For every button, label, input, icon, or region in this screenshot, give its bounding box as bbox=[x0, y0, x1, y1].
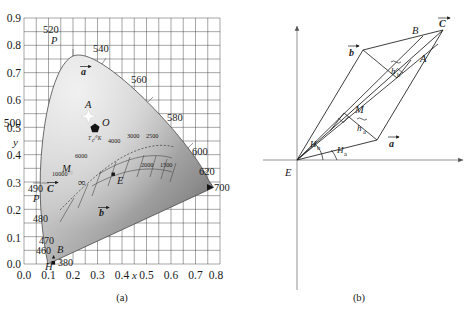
label-M: M bbox=[61, 163, 72, 174]
gamut-fill bbox=[20, 14, 225, 269]
label-vec-a-b: a bbox=[389, 138, 394, 149]
label-P-low: P bbox=[32, 193, 40, 204]
panel-b-vector-diagram: E M A B C b a h a h b H a H b bbox=[245, 0, 473, 313]
x-tick-0.8: 0.8 bbox=[209, 269, 224, 281]
label-H-a: H bbox=[336, 145, 344, 155]
x-tick-0.4: 0.4 bbox=[115, 269, 130, 281]
diagonal-M bbox=[297, 30, 443, 160]
label-H-a-group: H a bbox=[336, 145, 347, 157]
x-tick-0.2: 0.2 bbox=[66, 269, 81, 281]
panel-a-chromaticity-diagram: 0.9 0.8 0.7 0.6 0.5 0.4 0.3 0.2 0.1 0.0 … bbox=[0, 0, 245, 313]
label-E: E bbox=[116, 175, 124, 186]
iso-6000: 6000 bbox=[75, 152, 87, 159]
label-vec-C-b: C bbox=[439, 18, 446, 29]
label-vec-b-b: b bbox=[349, 47, 354, 58]
h-a-tilde bbox=[357, 118, 367, 120]
wl-380: 380 bbox=[58, 257, 73, 268]
iso-2000: 2000 bbox=[141, 161, 153, 168]
coordinate-axes bbox=[263, 26, 463, 290]
label-B-b: B bbox=[412, 25, 419, 36]
iso-2500: 2500 bbox=[146, 132, 158, 139]
iso-3000: 3000 bbox=[127, 132, 139, 139]
wl-460: 460 bbox=[36, 245, 51, 256]
edge-b-C bbox=[363, 30, 443, 50]
label-E-b: E bbox=[284, 167, 292, 178]
label-B: B bbox=[57, 244, 64, 255]
h-a-foot bbox=[330, 113, 344, 131]
label-h-a-sub: a bbox=[363, 128, 366, 135]
label-P-top: P bbox=[50, 35, 58, 46]
marker-E-square bbox=[112, 173, 115, 176]
y-tick-0.8: 0.8 bbox=[7, 39, 22, 51]
y-tick-0.6: 0.6 bbox=[7, 94, 22, 106]
label-M-b: M bbox=[354, 104, 365, 115]
x-axis-label: x bbox=[131, 269, 137, 281]
iso-1500: 1500 bbox=[160, 161, 172, 168]
label-h-a-group: h a bbox=[357, 123, 366, 135]
panel-a-caption: (a) bbox=[116, 292, 128, 304]
label-vec-C: C bbox=[47, 183, 54, 194]
y-tick-0.4: 0.4 bbox=[7, 149, 22, 161]
wl-540: 540 bbox=[93, 43, 109, 54]
panel-b-caption: (b) bbox=[353, 292, 366, 304]
label-h-b-sub: b bbox=[397, 71, 400, 78]
x-tick-0.5: 0.5 bbox=[139, 269, 154, 281]
edge-a-C bbox=[377, 30, 443, 140]
x-tick-0.6: 0.6 bbox=[164, 269, 179, 281]
wl-700: 700 bbox=[214, 182, 230, 193]
temp-axis-unit: /°K bbox=[93, 135, 102, 141]
label-vec-b: b bbox=[99, 207, 104, 218]
wl-500: 500 bbox=[4, 117, 22, 129]
label-H-b-sub: b bbox=[317, 144, 320, 151]
x-tick-0.3: 0.3 bbox=[90, 269, 105, 281]
label-h-b: h bbox=[391, 66, 396, 76]
x-tick-0.7: 0.7 bbox=[188, 269, 203, 281]
wl-620: 620 bbox=[199, 166, 215, 177]
wl-480: 480 bbox=[33, 213, 48, 224]
y-tick-0.7: 0.7 bbox=[7, 67, 22, 79]
chromaticity-svg: 0.9 0.8 0.7 0.6 0.5 0.4 0.3 0.2 0.1 0.0 … bbox=[0, 0, 245, 313]
vector-diagram-svg: E M A B C b a h a h b H a H b bbox=[245, 0, 473, 313]
wl-560: 560 bbox=[131, 74, 147, 85]
label-H: H bbox=[44, 261, 54, 272]
y-tick-0.3: 0.3 bbox=[7, 177, 22, 189]
label-H-b: H bbox=[309, 139, 317, 149]
vector-diagram-labels: E M A B C b a h a h b H a H b bbox=[284, 18, 446, 178]
label-A: A bbox=[84, 99, 92, 110]
x-tick-0.0: 0.0 bbox=[17, 269, 32, 281]
wl-520: 520 bbox=[43, 24, 59, 35]
label-H-a-sub: a bbox=[344, 150, 347, 157]
y-axis-label: y bbox=[12, 136, 18, 148]
y-tick-0.9: 0.9 bbox=[7, 12, 22, 24]
wl-580: 580 bbox=[167, 112, 183, 123]
iso-4000: 4000 bbox=[108, 137, 120, 144]
iso-infinity: ∞ bbox=[78, 177, 86, 188]
y-tick-0.1: 0.1 bbox=[7, 232, 22, 244]
label-O: O bbox=[102, 117, 110, 128]
label-h-a: h bbox=[357, 123, 362, 133]
wl-600: 600 bbox=[192, 146, 208, 157]
y-tick-0.2: 0.2 bbox=[7, 204, 22, 216]
label-vec-a: a bbox=[81, 66, 86, 77]
label-A-b: A bbox=[419, 53, 427, 64]
parallelogram bbox=[297, 30, 443, 160]
